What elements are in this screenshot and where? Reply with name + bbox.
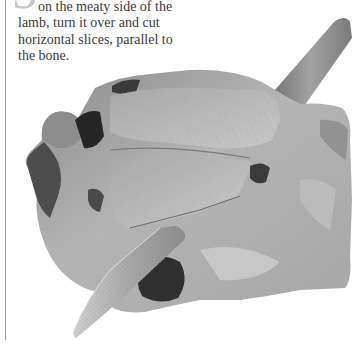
lamb-carving-photo <box>0 0 363 351</box>
lamb-joint <box>26 70 352 313</box>
